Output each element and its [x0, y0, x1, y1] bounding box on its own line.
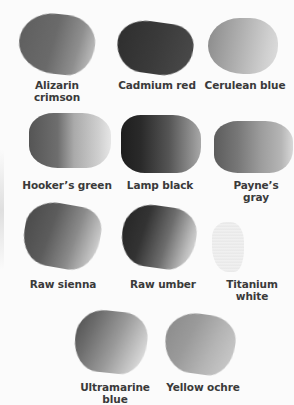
- swatch-alizarin-crimson: [16, 10, 98, 78]
- swatch-cadmium-red: [114, 17, 196, 79]
- swatch-titanium-white: [212, 222, 244, 272]
- label-ultramarine-blue: Ultramarine blue: [76, 381, 154, 405]
- swatch-ultramarine-blue: [72, 307, 150, 376]
- swatch-hookers-green: [29, 113, 111, 168]
- label-lamp-black: Lamp black: [125, 179, 195, 191]
- label-cadmium-red: Cadmium red: [112, 79, 202, 91]
- swatch-raw-sienna: [19, 198, 105, 274]
- label-alizarin-crimson: Alizarin crimson: [22, 79, 92, 103]
- page-edge-shadow: [0, 150, 4, 270]
- swatch-raw-umber: [118, 201, 200, 273]
- label-titanium-white: Titanium white: [210, 278, 294, 302]
- swatch-paynes-gray: [214, 121, 293, 173]
- label-raw-umber: Raw umber: [128, 278, 198, 290]
- label-hookers-green: Hooker’s green: [22, 179, 112, 191]
- swatch-lamp-black: [121, 115, 201, 173]
- label-paynes-gray: Payne’s gray: [220, 179, 292, 203]
- label-raw-sienna: Raw sienna: [28, 278, 98, 290]
- label-yellow-ochre: Yellow ochre: [165, 381, 241, 393]
- label-cerulean-blue: Cerulean blue: [203, 79, 287, 91]
- swatch-yellow-ochre: [161, 309, 239, 378]
- swatch-cerulean-blue: [208, 18, 278, 74]
